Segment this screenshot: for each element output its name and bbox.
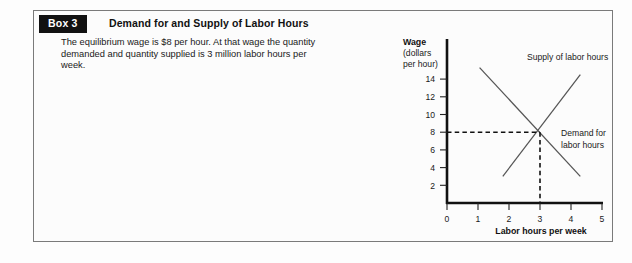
x-tick-label-4: 4 [569, 214, 574, 224]
demand-curve-label-line-2: labor hours [561, 140, 604, 150]
y-tick-label-14: 14 [425, 74, 435, 84]
box-number-tag: Box 3 [39, 15, 87, 33]
x-tick-label-2: 2 [507, 214, 512, 224]
x-tick-label-0: 0 [445, 214, 450, 224]
y-axis-subtitle-1: (dollars [403, 48, 431, 58]
x-tick-label-3: 3 [538, 214, 543, 224]
supply-curve-label: Supply of labor hours [527, 52, 608, 62]
x-axis-tick-labels: 0 1 2 3 4 5 [445, 214, 605, 224]
y-axis-title: Wage [403, 37, 426, 47]
box-body-text: The equilibrium wage is $8 per hour. At … [61, 37, 327, 72]
box-title: Demand for and Supply of Labor Hours [109, 17, 309, 29]
x-axis-subtitle: (millions) [489, 237, 524, 238]
y-tick-label-10: 10 [425, 110, 435, 120]
x-tick-label-1: 1 [476, 214, 481, 224]
demand-curve-label-line-1: Demand for [561, 128, 606, 138]
exhibit-box: Box 3 Demand for and Supply of Labor Hou… [33, 10, 613, 242]
supply-curve [503, 75, 581, 177]
x-tick-label-5: 5 [600, 214, 605, 224]
demand-curve [480, 68, 581, 177]
y-axis-subtitle-2: per hour) [403, 59, 438, 69]
supply-demand-chart: Wage (dollars per hour) 2 [375, 23, 613, 238]
y-tick-label-12: 12 [425, 92, 435, 102]
y-axis-tick-labels: 2 4 6 8 10 12 14 [425, 74, 435, 190]
chart-svg: Wage (dollars per hour) 2 [375, 23, 613, 238]
y-tick-label-2: 2 [430, 181, 435, 191]
y-tick-label-6: 6 [430, 145, 435, 155]
page-canvas: Box 3 Demand for and Supply of Labor Hou… [0, 0, 632, 263]
x-axis-title: Labor hours per week [495, 226, 587, 236]
y-tick-label-4: 4 [430, 163, 435, 173]
y-tick-label-8: 8 [430, 127, 435, 137]
